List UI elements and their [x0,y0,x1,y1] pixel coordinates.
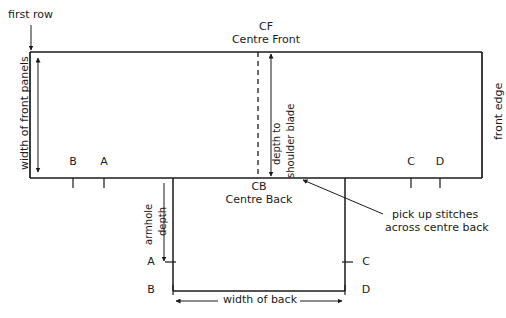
marker-d-back-right: D [355,284,377,296]
depth-to-shoulder-blade-line1: depth to [271,123,282,165]
depth-to-shoulder-blade-line2: shoulder blade [285,104,296,178]
marker-b-front-top: B [62,156,84,168]
pick-up-stitches-leader [303,180,383,214]
marker-d-front-top: D [429,156,451,168]
front-edge-label: front edge [493,83,505,140]
centre-front-label: Centre Front [216,34,316,46]
marker-c-back-right: C [355,256,377,268]
armhole-depth-line1: armhole [143,204,154,245]
armhole-depth-line2: depth [157,207,168,236]
diagram-canvas: first row width of front panels CF Centr… [0,0,506,318]
marker-b-back-left: B [140,284,162,296]
back-panel-ab-cd-ticks [165,262,353,295]
marker-a-back-left: A [140,256,162,268]
centre-back-abbr-label: CB [229,181,289,193]
width-of-back-label: width of back [214,294,306,306]
centre-front-abbr-label: CF [236,21,296,33]
centre-back-label: Centre Back [209,194,309,206]
marker-c-front-top: C [400,156,422,168]
width-of-front-panels-label: width of front panels [19,56,31,170]
marker-a-front-top: A [93,156,115,168]
first-row-label: first row [8,9,53,21]
pick-up-stitches-line2: across centre back [385,222,489,234]
pick-up-stitches-line1: pick up stitches [392,209,478,221]
